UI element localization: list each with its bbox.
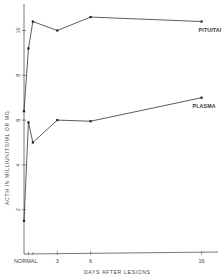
series-line-plasma: [24, 98, 202, 221]
series-label-pituitary: PITUITARY: [199, 27, 221, 33]
data-point-marker: [23, 220, 25, 222]
series-line-pituitary: [24, 17, 202, 111]
series-label-plasma: PLASMA: [193, 103, 216, 109]
data-point-marker: [90, 16, 92, 18]
y-tick-label: 2: [15, 208, 21, 211]
data-point-marker: [201, 97, 203, 99]
chart: 246810 NORMAL3616 PITUITARYPLASMA DAYS A…: [0, 0, 221, 278]
data-point-marker: [32, 141, 34, 143]
axes: [24, 4, 218, 254]
x-tick-label: 3: [56, 258, 59, 264]
data-point-marker: [32, 20, 34, 22]
y-tick-label: 8: [15, 74, 21, 77]
data-point-marker: [90, 120, 92, 122]
x-tick-label: 16: [199, 258, 205, 264]
data-point-marker: [27, 121, 29, 123]
data-point-marker: [56, 29, 58, 31]
series: PITUITARYPLASMA: [23, 16, 221, 222]
y-tick-label: 4: [15, 163, 21, 166]
data-point-marker: [201, 20, 203, 22]
x-axis: [24, 252, 218, 254]
x-axis-title: DAYS AFTER LESIONS: [84, 269, 151, 275]
y-axis-title: ACTH IN MILLIUNITS/ML OR MG: [4, 111, 10, 205]
data-point-marker: [27, 47, 29, 49]
y-tick-label: 6: [15, 119, 21, 122]
y-tick-label: 10: [15, 27, 21, 33]
data-point-marker: [56, 119, 58, 121]
x-tick-label: NORMAL: [14, 258, 38, 264]
data-point-marker: [23, 110, 25, 112]
x-tick-label: 6: [89, 258, 92, 264]
